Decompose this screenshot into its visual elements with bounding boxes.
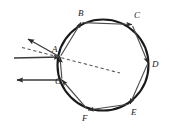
chord-c-d [133, 26, 148, 63]
vertex-label-f: F [81, 113, 88, 123]
chord-f-g [62, 80, 87, 109]
circle-boundary [58, 20, 149, 111]
vertex-label-d: D [151, 59, 159, 69]
vertex-label-group: A B C D E F G [51, 8, 159, 123]
chord-b-c [82, 23, 132, 25]
chord-a-b [61, 23, 81, 56]
vertex-label-g: G [55, 76, 62, 86]
normal-dashed-line [22, 48, 120, 74]
vertex-label-b: B [78, 8, 84, 18]
incident-ray [14, 57, 60, 58]
circle-boundary-group [58, 20, 149, 111]
geometry-diagram: A B C D E F G [0, 0, 176, 129]
vertex-label-a: A [51, 44, 58, 54]
vertex-label-e: E [130, 107, 137, 117]
figure-container: A B C D E F G [0, 0, 176, 129]
vertex-label-c: C [134, 10, 141, 20]
